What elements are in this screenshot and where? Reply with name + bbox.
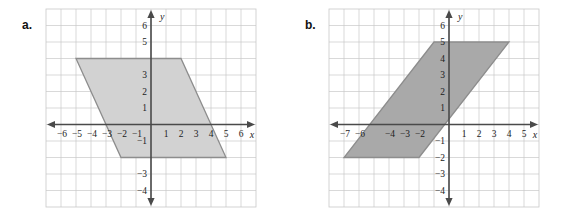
x-tick-label: −2: [117, 129, 127, 139]
y-axis-arrow-down: [445, 198, 452, 206]
panel-b-label: b.: [305, 18, 316, 32]
panel-b-svg: xy−7−6−4−3−212345654321−1−2−3−4: [329, 9, 539, 207]
figure-two-parallelograms: a. xy−6−5−4−3−2−112345665321−1−3−4 b. xy…: [0, 0, 581, 217]
x-axis-arrow-left: [330, 121, 338, 128]
y-tick-label: 6: [142, 21, 147, 31]
x-tick-label: 3: [492, 129, 497, 139]
y-axis-name: y: [457, 11, 463, 22]
x-tick-label: −6: [57, 129, 67, 139]
x-tick-label: 1: [164, 129, 169, 139]
x-axis-name: x: [532, 129, 538, 140]
y-tick-label: −1: [435, 136, 445, 146]
y-tick-label: 3: [440, 70, 445, 80]
x-tick-label: 3: [194, 129, 199, 139]
x-tick-label: 5: [522, 129, 527, 139]
x-tick-label: 6: [239, 129, 244, 139]
y-tick-label: −4: [137, 186, 147, 196]
x-tick-label: 2: [477, 129, 482, 139]
panel-a-plot: xy−6−5−4−3−2−112345665321−1−3−4: [46, 9, 256, 207]
y-tick-label: 2: [440, 87, 445, 97]
panel-a-svg: xy−6−5−4−3−2−112345665321−1−3−4: [46, 9, 256, 207]
y-tick-label: 2: [142, 87, 147, 97]
panel-a-label: a.: [22, 18, 32, 32]
y-tick-label: 6: [440, 21, 445, 31]
x-tick-label: −4: [385, 129, 395, 139]
y-tick-label: 5: [142, 37, 147, 47]
y-tick-label: −3: [435, 169, 445, 179]
x-tick-label: 4: [507, 129, 512, 139]
x-tick-label: −6: [355, 129, 365, 139]
x-tick-label: −5: [72, 129, 82, 139]
x-axis-name: x: [249, 129, 255, 140]
x-tick-label: −7: [340, 129, 350, 139]
y-tick-label: −4: [435, 186, 445, 196]
panel-b: b. xy−7−6−4−3−212345654321−1−2−3−4: [291, 0, 581, 217]
x-tick-label: 2: [179, 129, 184, 139]
panel-b-plot: xy−7−6−4−3−212345654321−1−2−3−4: [329, 9, 539, 207]
y-tick-label: 4: [440, 54, 445, 64]
y-tick-label: −2: [435, 153, 445, 163]
y-axis-arrow-down: [147, 198, 154, 206]
x-axis-arrow-right: [247, 121, 255, 128]
y-axis-name: y: [159, 11, 165, 22]
x-tick-label: −2: [415, 129, 425, 139]
y-tick-label: −1: [137, 136, 147, 146]
y-tick-label: −3: [137, 169, 147, 179]
panel-a: a. xy−6−5−4−3−2−112345665321−1−3−4: [0, 0, 290, 217]
x-tick-label: −3: [400, 129, 410, 139]
y-tick-label: 3: [142, 70, 147, 80]
parallelogram-b: [344, 42, 509, 158]
y-axis-arrow-up: [147, 10, 154, 18]
y-tick-label: 5: [440, 37, 445, 47]
x-tick-label: 1: [462, 129, 467, 139]
x-axis-arrow-left: [47, 121, 55, 128]
x-tick-label: 5: [224, 129, 229, 139]
y-tick-label: 1: [142, 103, 147, 113]
y-tick-label: 1: [440, 103, 445, 113]
x-tick-label: 4: [209, 129, 214, 139]
x-tick-label: −3: [102, 129, 112, 139]
x-tick-label: −4: [87, 129, 97, 139]
panel-b-shape-layer: [344, 42, 509, 158]
x-axis-arrow-right: [530, 121, 538, 128]
y-axis-arrow-up: [445, 10, 452, 18]
